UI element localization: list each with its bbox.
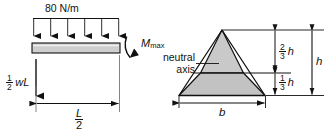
neutral-axis-label: neutral axis (141, 52, 195, 76)
reaction-fraction-denominator: 2 (6, 82, 13, 92)
upper-distance-variable: h (288, 45, 294, 57)
upper-distance-label: 23h (279, 43, 294, 62)
neutral-axis-label-line2: axis (176, 63, 195, 75)
upper-distance-denominator: 3 (279, 51, 286, 61)
base-width-label: b (219, 107, 225, 119)
lower-distance-numerator: 1 (279, 74, 286, 83)
distributed-load-arrows (34, 19, 119, 36)
span-fraction: L2 (75, 108, 83, 132)
reaction-fraction-numerator: 1 (6, 74, 13, 83)
max-moment-subscript: max (150, 41, 164, 50)
lower-distance-label: 13h (279, 74, 294, 93)
upper-distance-numerator: 2 (279, 43, 286, 52)
span-length-label: L2 (75, 108, 83, 132)
total-height-label: h (316, 56, 322, 68)
span-fraction-numerator: L (75, 108, 83, 120)
beam-body (32, 43, 120, 53)
distributed-load-label: 80 N/m (45, 3, 79, 14)
max-moment-label: Mmax (141, 38, 165, 50)
reaction-fraction: 12 (6, 74, 13, 93)
reaction-force-label: 12wL (6, 74, 29, 93)
span-fraction-denominator: 2 (75, 119, 83, 132)
lower-distance-denominator: 3 (279, 82, 286, 92)
engineering-figure: 80 N/m Mmax neutral axis 12wL L2 23h 13h… (0, 0, 334, 138)
lower-distance-variable: h (288, 76, 294, 88)
reaction-variable: wL (15, 76, 29, 88)
upper-distance-fraction: 23 (279, 43, 286, 62)
max-moment-curved-arrow (125, 37, 130, 58)
neutral-axis-label-line1: neutral (163, 51, 195, 63)
max-moment-symbol: M (141, 37, 150, 49)
lower-distance-fraction: 13 (279, 74, 286, 93)
